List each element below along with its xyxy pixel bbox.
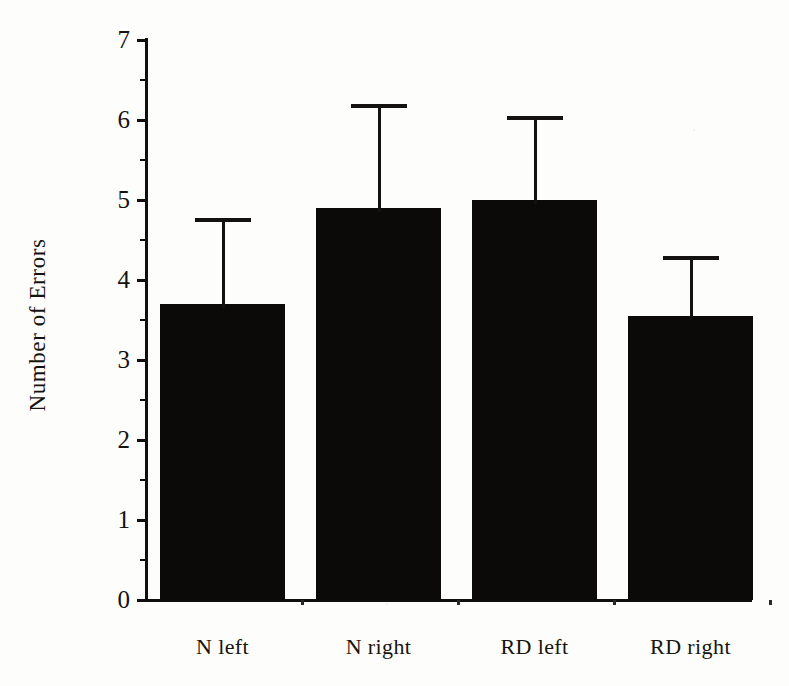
error-bar-cap-rd-right: [663, 256, 719, 260]
error-bar-stem-rd-right: [690, 256, 693, 320]
y-tick-label-0: 0: [86, 587, 130, 612]
bar-chart-figure: Number of Errors 01234567 N leftN rightR…: [0, 0, 789, 686]
plot-area: Number of Errors 01234567 N leftN rightR…: [0, 0, 789, 686]
y-tick-minor-5.5: [140, 159, 146, 161]
y-tick-minor-3.5: [140, 319, 146, 321]
error-bar-stem-n-right: [378, 104, 381, 212]
x-axis-label-rd-left: RD left: [445, 634, 625, 660]
error-bar-cap-rd-left: [507, 116, 563, 120]
bar-n-left: [160, 304, 285, 600]
y-tick-major-7: [137, 39, 146, 42]
error-bar-stem-rd-left: [534, 116, 537, 204]
y-tick-major-0: [137, 599, 146, 602]
bar-rd-left: [472, 200, 597, 600]
y-tick-minor-6.5: [140, 79, 146, 81]
x-axis-label-n-right: N right: [289, 634, 469, 660]
y-tick-major-4: [137, 279, 146, 282]
bar-n-right: [316, 208, 441, 600]
y-tick-major-1: [137, 519, 146, 522]
y-tick-label-7: 7: [86, 27, 130, 52]
y-tick-major-3: [137, 359, 146, 362]
x-axis-label-rd-right: RD right: [601, 634, 781, 660]
y-tick-minor-4.5: [140, 239, 146, 241]
y-tick-label-2: 2: [86, 427, 130, 452]
y-tick-label-6: 6: [86, 107, 130, 132]
y-tick-label-4: 4: [86, 267, 130, 292]
error-bar-cap-n-right: [351, 104, 407, 108]
bar-rd-right: [628, 316, 753, 600]
y-tick-major-6: [137, 119, 146, 122]
x-tick-2: [613, 600, 616, 605]
x-tick-0: [301, 600, 304, 605]
x-axis-label-n-left: N left: [133, 634, 313, 660]
y-tick-major-5: [137, 199, 146, 202]
x-tick-3: [769, 600, 772, 605]
y-tick-minor-0.5: [140, 559, 146, 561]
error-bar-stem-n-left: [222, 218, 225, 308]
y-axis-title: Number of Errors: [25, 215, 51, 435]
y-tick-minor-2.5: [140, 399, 146, 401]
error-bar-cap-n-left: [195, 218, 251, 222]
y-tick-label-1: 1: [86, 507, 130, 532]
y-tick-major-2: [137, 439, 146, 442]
y-tick-minor-1.5: [140, 479, 146, 481]
y-tick-label-3: 3: [86, 347, 130, 372]
x-tick-1: [457, 600, 460, 605]
y-tick-label-5: 5: [86, 187, 130, 212]
